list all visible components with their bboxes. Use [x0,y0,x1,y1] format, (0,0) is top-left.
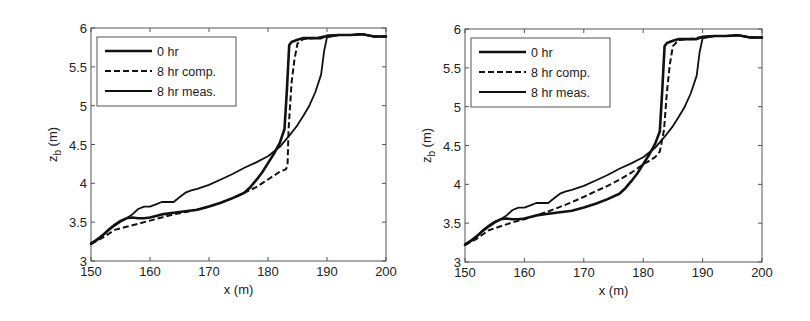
legend-label: 8 hr comp. [157,65,216,79]
y-tick-label: 5.5 [443,61,461,76]
x-tick-label: 180 [257,264,279,279]
y-tick-label: 4.5 [443,139,461,154]
left-chart-panel: 15016017018019020033.544.555.56x (m)zb (… [0,0,405,321]
y-tick-label: 3 [454,255,461,270]
y-tick-label: 5.5 [69,60,87,75]
y-tick-label: 5 [80,99,87,114]
legend-label: 0 hr [531,46,553,60]
x-tick-label: 170 [198,264,220,279]
y-tick-label: 6 [80,21,87,36]
legend-label: 0 hr [157,45,179,59]
legend-label: 8 hr meas. [157,85,216,99]
x-tick-label: 170 [573,265,595,280]
x-axis-label: x (m) [599,283,629,298]
x-axis-label: x (m) [224,282,254,297]
right-legend: 0 hr8 hr comp.8 hr meas. [471,38,610,107]
y-axis-label: zb (m) [419,128,437,163]
right-chart-panel: 15016017018019020033.544.555.56x (m)zb (… [405,0,810,321]
x-tick-label: 200 [375,264,397,279]
y-tick-label: 4 [454,177,461,192]
x-tick-label: 160 [514,265,536,280]
x-tick-label: 190 [692,265,714,280]
x-tick-label: 180 [632,265,654,280]
legend-label: 8 hr comp. [531,66,590,80]
y-tick-label: 3 [80,254,87,269]
y-tick-label: 4 [80,176,87,191]
y-tick-label: 3.5 [69,215,87,230]
legend-label: 8 hr meas. [531,86,590,100]
left-legend: 0 hr8 hr comp.8 hr meas. [97,37,236,106]
left-chart: 15016017018019020033.544.555.56x (m)zb (… [0,0,405,321]
x-tick-label: 160 [139,264,161,279]
x-tick-label: 200 [751,265,773,280]
y-tick-label: 4.5 [69,138,87,153]
y-tick-label: 6 [454,22,461,37]
x-tick-label: 190 [316,264,338,279]
y-tick-label: 5 [454,100,461,115]
y-tick-label: 3.5 [443,216,461,231]
right-chart: 15016017018019020033.544.555.56x (m)zb (… [405,0,810,321]
y-axis-label: zb (m) [45,127,63,162]
